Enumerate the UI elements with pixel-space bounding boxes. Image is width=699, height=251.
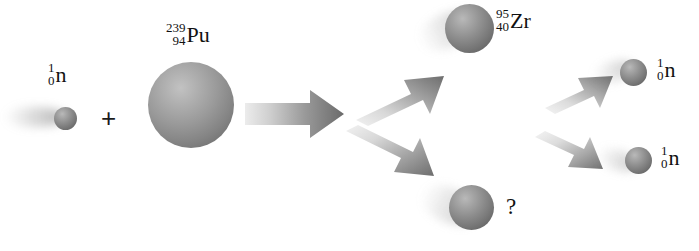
plutonium-label: 239 94 Pu — [166, 22, 210, 49]
incoming-neutron-mass-number: 1 — [48, 61, 55, 74]
product-neutron-upper-symbol: n — [665, 57, 676, 82]
incoming-neutron-label: 1 0 n — [48, 62, 67, 89]
plutonium-mass-number: 239 — [166, 21, 186, 34]
plutonium-atomic-number: 94 — [173, 34, 186, 47]
product-neutron-lower-symbol: n — [669, 145, 680, 170]
product-neutron-sphere-upper — [620, 59, 647, 86]
product-neutron-upper-mass-number: 1 — [657, 56, 664, 69]
incoming-neutron-atomic-number: 0 — [48, 74, 55, 87]
incoming-neutron-symbol: n — [56, 62, 67, 87]
zirconium-mass-number: 95 — [496, 7, 509, 20]
product-arrow-up — [356, 76, 444, 126]
product-neutron-upper-atomic-number: 0 — [657, 69, 664, 82]
product-neutron-label-lower: 1 0 n — [661, 145, 680, 172]
product-neutron-sphere-lower — [625, 147, 652, 174]
fission-arrow — [245, 90, 344, 138]
product-arrow-down — [346, 125, 434, 176]
zirconium-sphere — [445, 4, 494, 53]
zirconium-symbol: Zr — [510, 8, 531, 33]
plutonium-symbol: Pu — [187, 22, 210, 47]
product-neutron-lower-mass-number: 1 — [661, 144, 668, 157]
product-neutron-lower-atomic-number: 0 — [661, 157, 668, 170]
unknown-fragment-label: ? — [506, 194, 516, 220]
product-neutron-label-upper: 1 0 n — [657, 57, 676, 84]
plutonium-nucleus-sphere — [148, 62, 234, 148]
neutron-arrow-down — [535, 131, 603, 169]
unknown-fragment-sphere — [449, 185, 494, 230]
zirconium-atomic-number: 40 — [496, 20, 509, 33]
fission-diagram: 1 0 n + 239 94 Pu 95 40 Zr ? 1 0 — [0, 0, 699, 251]
zirconium-label: 95 40 Zr — [496, 8, 531, 35]
incoming-neutron-sphere — [54, 107, 77, 130]
plus-operator: + — [101, 103, 116, 134]
